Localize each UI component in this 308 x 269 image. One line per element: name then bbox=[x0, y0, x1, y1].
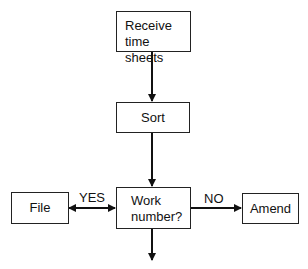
edge-label-yes: YES bbox=[79, 190, 105, 205]
edge-label-no: NO bbox=[204, 191, 224, 206]
node-amend: Amend bbox=[242, 193, 299, 224]
node-file: File bbox=[11, 192, 69, 224]
node-amend-label: Amend bbox=[250, 201, 291, 216]
node-receive-line1: Receive bbox=[125, 18, 190, 34]
node-decision-work-number: Work number? bbox=[116, 187, 191, 229]
node-sort-label: Sort bbox=[141, 110, 165, 125]
node-decision-line1: Work bbox=[131, 193, 190, 209]
node-sort: Sort bbox=[116, 102, 190, 133]
node-decision-line2: number? bbox=[131, 209, 190, 225]
node-receive-time-sheets: Receive time sheets bbox=[116, 11, 191, 52]
node-file-label: File bbox=[30, 200, 51, 215]
node-receive-line2: time sheets bbox=[125, 34, 190, 66]
